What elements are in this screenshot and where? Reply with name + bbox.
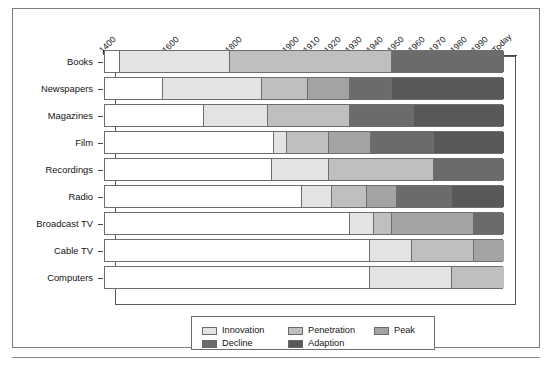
chart-figure-frame: 1400160018001900191019201930194019501960…: [12, 8, 540, 348]
legend-swatch-decline: [202, 340, 217, 348]
legend-swatch-penetration: [288, 327, 303, 335]
bar-radio: [104, 185, 503, 208]
category-tick: [98, 251, 103, 252]
segment-empty: [105, 267, 370, 288]
segment-decline: [434, 159, 504, 180]
segment-adaption: [414, 105, 504, 126]
segment-innovation: [120, 51, 230, 72]
bar-broadcast-tv: [104, 212, 503, 235]
category-label-books: Books: [67, 50, 93, 73]
category-tick: [98, 116, 103, 117]
category-label-recordings: Recordings: [46, 158, 93, 181]
category-tick: [98, 197, 103, 198]
segment-empty: [105, 132, 274, 153]
bar-row: Film: [13, 131, 539, 154]
legend-item-penetration[interactable]: Penetration: [288, 324, 355, 337]
segment-penetration: [374, 213, 392, 234]
category-tick: [98, 89, 103, 90]
segment-adaption: [452, 186, 504, 207]
bar-newspapers: [104, 77, 503, 100]
segment-empty: [105, 186, 302, 207]
bar-film: [104, 131, 503, 154]
bar-row: Broadcast TV: [13, 212, 539, 235]
segment-innovation: [163, 78, 262, 99]
category-tick: [98, 224, 103, 225]
segment-adaption: [434, 132, 504, 153]
footer-divider-rule: [12, 357, 540, 358]
bar-magazines: [104, 104, 503, 127]
category-label-broadcast-tv: Broadcast TV: [36, 212, 93, 235]
segment-empty: [105, 78, 163, 99]
bar-computers: [104, 266, 503, 289]
category-label-radio: Radio: [69, 185, 94, 208]
segment-decline: [350, 105, 414, 126]
segment-empty: [105, 240, 370, 261]
segment-peak: [308, 78, 350, 99]
segment-penetration: [268, 105, 350, 126]
bar-row: Radio: [13, 185, 539, 208]
legend-label: Adaption: [308, 339, 344, 348]
bar-books: [104, 50, 503, 73]
segment-innovation: [272, 159, 329, 180]
segment-peak: [392, 213, 474, 234]
legend-item-innovation[interactable]: Innovation: [202, 324, 264, 337]
segment-penetration: [329, 159, 434, 180]
category-label-film: Film: [75, 131, 93, 154]
bar-row: Recordings: [13, 158, 539, 181]
segment-innovation: [350, 213, 374, 234]
bar-row: Magazines: [13, 104, 539, 127]
legend-item-peak[interactable]: Peak: [374, 324, 415, 337]
legend-label: Decline: [222, 339, 253, 348]
legend-item-adaption[interactable]: Adaption: [288, 337, 344, 350]
segment-innovation: [274, 132, 287, 153]
segment-peak: [367, 186, 397, 207]
segment-penetration: [332, 186, 367, 207]
bar-recordings: [104, 158, 503, 181]
segment-peak: [474, 240, 504, 261]
category-tick: [98, 143, 103, 144]
legend-label: Penetration: [308, 326, 355, 335]
segment-penetration: [412, 240, 474, 261]
segment-decline: [397, 186, 452, 207]
segment-empty: [105, 51, 120, 72]
segment-decline: [474, 213, 504, 234]
segment-decline: [392, 51, 504, 72]
legend-swatch-peak: [374, 327, 389, 335]
legend-label: Peak: [394, 326, 415, 335]
segment-innovation: [370, 267, 452, 288]
bar-cable-tv: [104, 239, 503, 262]
category-label-newspapers: Newspapers: [41, 77, 93, 100]
bar-row: Computers: [13, 266, 539, 289]
category-tick: [98, 62, 103, 63]
segment-innovation: [204, 105, 268, 126]
legend-swatch-innovation: [202, 327, 217, 335]
category-tick: [98, 170, 103, 171]
segment-penetration: [287, 132, 329, 153]
segment-adaption: [392, 78, 504, 99]
segment-innovation: [302, 186, 332, 207]
segment-decline: [371, 132, 434, 153]
segment-penetration: [452, 267, 504, 288]
segment-innovation: [370, 240, 412, 261]
segment-empty: [105, 213, 350, 234]
segment-peak: [329, 132, 371, 153]
category-label-cable-tv: Cable TV: [54, 239, 93, 262]
bar-row: Cable TV: [13, 239, 539, 262]
bar-row: Newspapers: [13, 77, 539, 100]
segment-penetration: [262, 78, 308, 99]
bar-row: Books: [13, 50, 539, 73]
legend-item-decline[interactable]: Decline: [202, 337, 253, 350]
category-label-magazines: Magazines: [48, 104, 93, 127]
category-label-computers: Computers: [47, 266, 93, 289]
legend-label: Innovation: [222, 326, 264, 335]
category-tick: [98, 278, 103, 279]
segment-decline: [350, 78, 392, 99]
chart-legend: InnovationPenetrationPeakDeclineAdaption: [191, 316, 435, 350]
legend-swatch-adaption: [288, 340, 303, 348]
segment-penetration: [230, 51, 392, 72]
segment-empty: [105, 159, 272, 180]
segment-empty: [105, 105, 204, 126]
